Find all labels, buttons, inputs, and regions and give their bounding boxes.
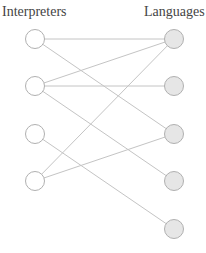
interpreter-node [26,125,45,144]
bipartite-graph [0,0,206,253]
language-node [165,77,184,96]
edge [35,39,174,181]
language-node [165,220,184,239]
edge [35,134,174,229]
language-node [165,30,184,49]
edge [35,134,174,181]
interpreter-node [26,172,45,191]
edge [35,39,174,86]
edge [35,86,174,181]
interpreter-node [26,77,45,96]
interpreter-node [26,30,45,49]
language-node [165,125,184,144]
language-node [165,172,184,191]
